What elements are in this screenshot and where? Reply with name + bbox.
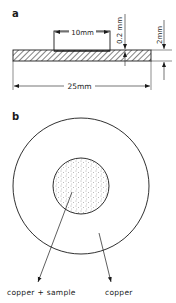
- inner-sample-disc: [53, 158, 109, 214]
- copper-base-plate: [13, 50, 151, 61]
- label-copper-sample: copper + sample: [7, 288, 76, 297]
- dim-base-width: 25mm: [67, 82, 91, 91]
- panel-a: a 10mm 0.2 mm 2mm 25mm: [12, 8, 172, 91]
- dim-base-thickness: 2mm: [156, 26, 164, 44]
- dim-sample-thickness: 0.2 mm: [116, 17, 124, 44]
- diagram-figure: a 10mm 0.2 mm 2mm 25mm b co: [0, 0, 176, 303]
- label-copper: copper: [105, 288, 133, 297]
- panel-b: b copper + sample copper: [7, 111, 149, 297]
- panel-a-label: a: [12, 8, 19, 19]
- diagram-svg: a 10mm 0.2 mm 2mm 25mm b co: [0, 0, 176, 303]
- leader-arrow-copper: [99, 233, 111, 282]
- dim-sample-width: 10mm: [71, 29, 94, 37]
- leader-arrow-sample: [38, 192, 72, 282]
- panel-b-label: b: [12, 111, 19, 122]
